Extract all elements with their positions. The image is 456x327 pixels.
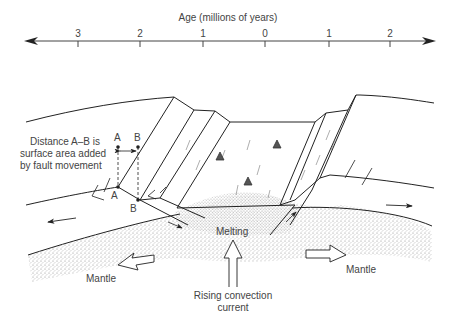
distance-note-line: surface area added: [20, 148, 100, 160]
axis-tick-label: 0: [262, 28, 268, 39]
rising-current-label: Rising convection current: [183, 290, 283, 314]
rising-current-line: current: [183, 302, 283, 314]
axis-tick-label: 3: [75, 28, 81, 39]
axis-tick-label: 1: [200, 28, 206, 39]
axis-tick-label: 1: [326, 28, 332, 39]
point-b-top-label: B: [134, 132, 141, 143]
mantle-right-label: Mantle: [346, 264, 376, 275]
melting-label: Melting: [216, 226, 248, 237]
volcano-icons: [216, 140, 281, 185]
distance-note-line: Distance A–B is: [20, 136, 100, 148]
point-a-top-label: A: [114, 132, 121, 143]
ab-dashed-lines: [118, 147, 138, 200]
distance-note: Distance A–B is surface area added by fa…: [20, 136, 100, 172]
age-axis: [24, 37, 436, 47]
axis-title: Age (millions of years): [0, 12, 456, 23]
plate-right-arrow: [386, 205, 412, 206]
mantle-left-label: Mantle: [86, 273, 116, 284]
point-a-bottom-label: A: [111, 190, 118, 201]
distance-note-line: by fault movement: [20, 160, 100, 172]
axis-tick-label: 2: [137, 28, 143, 39]
axis-tick-label: 2: [387, 28, 393, 39]
rising-current-line: Rising convection: [183, 290, 283, 302]
point-b-bottom-label: B: [130, 203, 137, 214]
plate-left-arrow: [48, 218, 76, 222]
